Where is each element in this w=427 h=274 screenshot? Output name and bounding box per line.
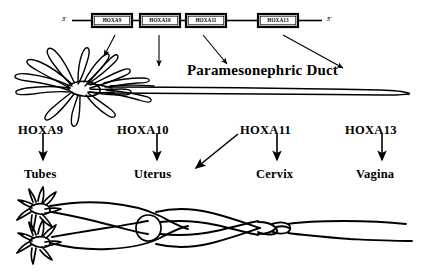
figure-canvas (0, 0, 427, 274)
arrow-hoxa11-uterus (196, 134, 238, 168)
gene-box-label-hoxa11: HOXA11 (186, 18, 226, 23)
hoxa-reproductive-tract-figure: 3' 5' HOXA9 HOXA10 HOXA11 HOXA13 Parames… (0, 0, 427, 274)
gene-organ-arrows (43, 133, 382, 168)
organ-label-tubes: Tubes (24, 168, 57, 181)
strand-label-3prime: 3' (62, 16, 67, 22)
uterus-lower-contour (156, 228, 260, 247)
strand-label-5prime: 5' (327, 16, 332, 22)
fimbria-star-upper (17, 187, 61, 231)
gene-label-hoxa13: HOXA13 (345, 124, 397, 137)
arrow-hoxa9-to-duct (104, 35, 115, 56)
gene-box-label-hoxa10: HOXA10 (140, 18, 180, 23)
reproductive-tract-drawing (17, 187, 412, 264)
duct-tube (110, 87, 410, 95)
organ-label-cervix: Cervix (256, 168, 293, 181)
arrow-hoxa11-to-duct (203, 35, 227, 64)
uterine-cavity (136, 215, 161, 241)
cervix (258, 222, 290, 234)
organ-label-vagina: Vagina (356, 168, 394, 181)
gene-box-label-hoxa13: HOXA13 (258, 18, 298, 23)
vagina (288, 221, 412, 241)
organ-label-uterus: Uterus (134, 168, 171, 181)
gene-box-label-hoxa9: HOXA9 (92, 18, 132, 23)
fimbria-star-lower (17, 220, 61, 264)
gene-label-hoxa11: HOXA11 (240, 124, 291, 137)
tube-lower-inner (52, 221, 148, 237)
gene-label-hoxa9: HOXA9 (18, 124, 63, 137)
gene-label-hoxa10: HOXA10 (117, 124, 169, 137)
paramesonephric-duct-drawing (15, 48, 410, 127)
paramesonephric-duct-title: Paramesonephric Duct (187, 63, 338, 78)
uterus-upper-contour (156, 209, 260, 228)
